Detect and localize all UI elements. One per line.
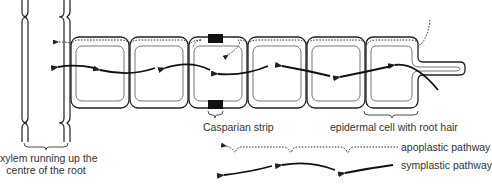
symplastic-legend-label: symplastic pathway [401, 159, 492, 171]
xylem-label-line2: centre of the root [0, 164, 92, 176]
xylem-label-line1: xylem running up the [0, 152, 92, 164]
apoplastic-path-cells [72, 20, 430, 45]
epidermal-cell-label: epidermal cell with root hair [330, 121, 458, 133]
apoplastic-legend-label: apoplastic pathway [401, 141, 490, 153]
symplastic-legend-arrows [224, 163, 393, 175]
casparian-strip-bottom [208, 100, 223, 109]
xylem-vessel [22, 0, 70, 150]
casparian-strip-top [208, 34, 223, 43]
legend [224, 146, 398, 175]
apoplastic-legend-line [226, 146, 398, 152]
casparian-strip-label: Casparian strip [203, 121, 274, 133]
